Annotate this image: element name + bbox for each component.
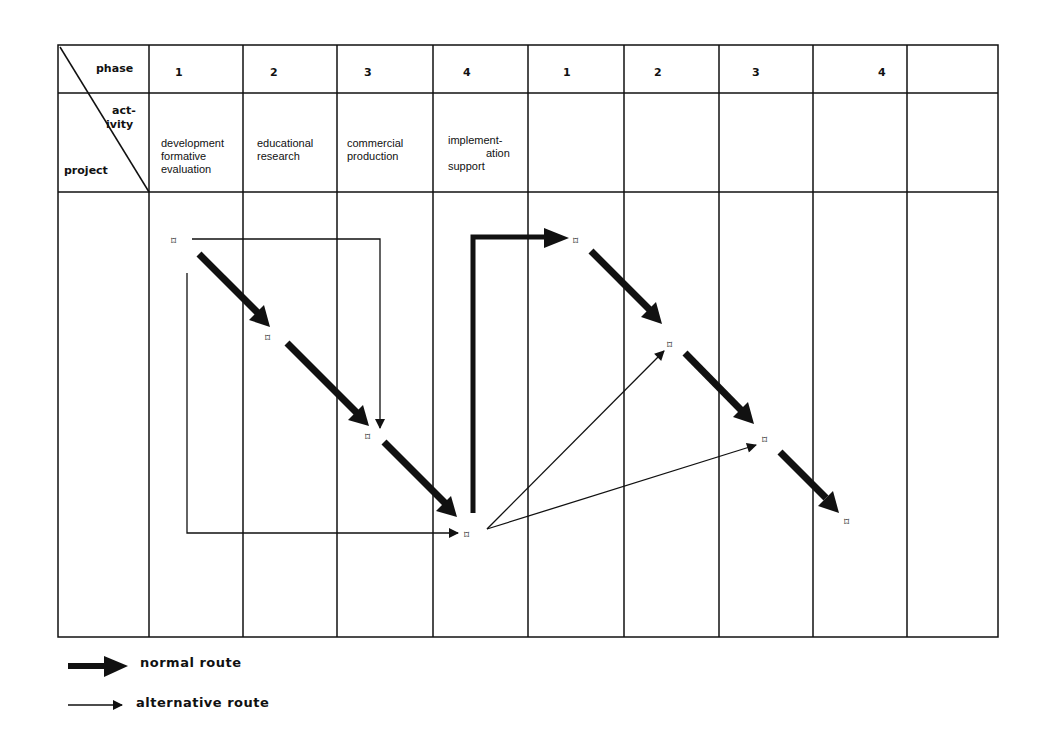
normal-route-q1-to-q2 <box>591 251 662 324</box>
node-marker-icon: ⌑ <box>762 433 767 446</box>
activity-line: formative <box>161 150 224 163</box>
legend-normal-arrow-icon <box>68 656 128 677</box>
corner-phase-label: phase <box>96 62 133 75</box>
activity-line: commercial <box>347 137 403 150</box>
node-marker-icon: ⌑ <box>365 430 370 443</box>
alt-route-1-to-3 <box>192 239 380 428</box>
legend-alternative-route-label: alternative route <box>136 695 269 710</box>
activity-implementation-support: implement- ation support <box>448 134 510 173</box>
phase-header-2: 2 <box>270 66 278 79</box>
node-marker-icon: ⌑ <box>667 338 672 351</box>
activity-line: support <box>448 160 510 173</box>
node-marker-icon: ⌑ <box>171 234 176 247</box>
activity-commercial-production: commercial production <box>347 137 403 163</box>
activity-line: production <box>347 150 403 163</box>
corner-activity-label-1: act- <box>112 104 136 117</box>
phase-header-8: 4 <box>878 66 886 79</box>
activity-line: educational <box>257 137 313 150</box>
alt-route-1-to-4 <box>187 273 458 533</box>
activity-line: research <box>257 150 313 163</box>
normal-route-3-to-4 <box>384 442 457 517</box>
activity-line: development <box>161 137 224 150</box>
phase-header-3: 3 <box>364 66 372 79</box>
normal-route-1-to-2 <box>199 254 270 327</box>
alt-route-4-to-q2 <box>487 351 664 529</box>
phase-header-4: 4 <box>463 66 471 79</box>
activity-line: ation <box>448 147 510 160</box>
phase-header-5: 1 <box>563 66 571 79</box>
corner-project-label: project <box>64 164 108 177</box>
normal-route-2-to-3 <box>287 343 369 426</box>
normal-route-q3-to-q4 <box>780 452 839 513</box>
normal-route-4-to-q1 <box>473 228 569 513</box>
activity-development: development formative evaluation <box>161 137 224 176</box>
node-marker-icon: ⌑ <box>844 515 849 528</box>
phase-header-1: 1 <box>175 66 183 79</box>
activity-line: evaluation <box>161 163 224 176</box>
node-marker-icon: ⌑ <box>265 331 270 344</box>
phase-header-7: 3 <box>752 66 760 79</box>
phase-header-6: 2 <box>654 66 662 79</box>
activity-educational-research: educational research <box>257 137 313 163</box>
node-marker-icon: ⌑ <box>464 528 469 541</box>
normal-routes <box>199 228 839 517</box>
table-grid <box>58 45 998 637</box>
activity-line: implement- <box>448 134 510 147</box>
phase-activity-diagram <box>0 0 1047 754</box>
node-marker-icon: ⌑ <box>573 234 578 247</box>
corner-activity-label-2: ivity <box>106 118 133 131</box>
legend-normal-route-label: normal route <box>140 655 242 670</box>
